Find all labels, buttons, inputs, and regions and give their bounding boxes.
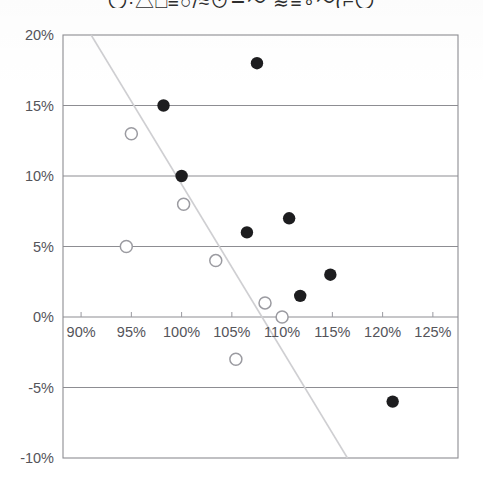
data-point-open-markers xyxy=(125,128,137,140)
data-point-open-markers xyxy=(120,241,132,253)
data-point-filled-markers xyxy=(241,226,253,238)
y-tick-label: 0% xyxy=(33,309,54,325)
data-point-filled-markers xyxy=(251,57,263,69)
data-point-open-markers xyxy=(276,311,288,323)
data-point-filled-markers xyxy=(386,395,398,407)
y-tick-label: 20% xyxy=(25,27,54,43)
chart-canvas: 20%15%10%5%0%-5%-10% 90%95%100%105%110%1… xyxy=(0,0,483,479)
data-point-filled-markers xyxy=(283,212,295,224)
data-point-filled-markers xyxy=(294,290,306,302)
y-tick-label: -10% xyxy=(20,450,54,466)
x-tick-label: 110% xyxy=(264,324,300,340)
scatter-chart: 20%15%10%5%0%-5%-10% 90%95%100%105%110%1… xyxy=(0,0,483,479)
data-point-open-markers xyxy=(259,297,271,309)
y-tick-label: 5% xyxy=(33,239,54,255)
data-point-filled-markers xyxy=(324,269,336,281)
x-tick-label: 125% xyxy=(414,324,451,340)
data-point-filled-markers xyxy=(157,99,169,111)
y-axis-tick-labels: 20%15%10%5%0%-5%-10% xyxy=(20,27,54,466)
y-tick-label: 10% xyxy=(25,168,54,184)
y-tick-label: -5% xyxy=(28,380,54,396)
x-tick-label: 115% xyxy=(314,324,350,340)
data-point-open-markers xyxy=(210,255,222,267)
x-tick-label: 105% xyxy=(213,324,250,340)
data-point-open-markers xyxy=(178,198,190,210)
x-tick-label: 90% xyxy=(67,324,96,340)
data-point-filled-markers xyxy=(175,170,187,182)
tickmarks-group xyxy=(81,312,433,317)
data-point-open-markers xyxy=(230,353,242,365)
data-points-group xyxy=(120,57,399,408)
x-tick-label: 95% xyxy=(117,324,146,340)
y-tick-label: 15% xyxy=(25,98,54,114)
x-tick-label: 120% xyxy=(364,324,401,340)
x-tick-label: 100% xyxy=(163,324,200,340)
x-axis-tick-labels: 90%95%100%105%110%115%120%125% xyxy=(67,324,452,340)
